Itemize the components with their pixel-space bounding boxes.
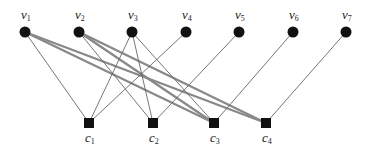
check-node-c4: c4	[261, 118, 272, 146]
edge-v2-c3	[79, 32, 214, 123]
check-node-label: c4	[262, 130, 272, 146]
variable-node-v6: v6	[288, 7, 299, 38]
edge-v3-c1	[89, 32, 132, 123]
circle-node-icon	[181, 27, 192, 38]
circle-node-icon	[341, 27, 352, 38]
bipartite-graph: v1v2v3v4v5v6v7 c1c2c3c4	[0, 0, 371, 147]
variable-node-label: v7	[342, 7, 352, 23]
variable-node-v3: v3	[127, 7, 138, 38]
variable-node-v1: v1	[20, 7, 31, 38]
circle-node-icon	[127, 27, 138, 38]
circle-node-icon	[20, 27, 31, 38]
square-node-icon	[84, 118, 94, 128]
square-node-icon	[209, 118, 219, 128]
edge-v1-c3	[25, 32, 214, 123]
square-node-icon	[148, 118, 158, 128]
check-node-label: c2	[149, 130, 159, 146]
circle-node-icon	[234, 27, 245, 38]
edge-v3-c2	[132, 32, 153, 123]
edges-layer	[25, 32, 346, 123]
variable-node-v4: v4	[181, 7, 192, 38]
variable-node-v2: v2	[74, 7, 85, 38]
square-node-icon	[261, 118, 271, 128]
check-node-label: c3	[210, 130, 220, 146]
variable-node-label: v3	[128, 7, 138, 23]
variable-node-label: v5	[235, 7, 245, 23]
variable-node-label: v4	[182, 7, 192, 23]
variable-nodes-layer: v1v2v3v4v5v6v7	[20, 7, 352, 38]
edge-v2-c2	[79, 32, 153, 123]
variable-node-label: v6	[289, 7, 299, 23]
check-nodes-layer: c1c2c3c4	[84, 118, 272, 146]
edge-v7-c4	[266, 32, 346, 123]
variable-node-v5: v5	[234, 7, 245, 38]
circle-node-icon	[74, 27, 85, 38]
variable-node-label: v2	[75, 7, 85, 23]
check-node-c1: c1	[84, 118, 95, 146]
variable-node-v7: v7	[341, 7, 352, 38]
variable-node-label: v1	[21, 7, 31, 23]
edge-v1-c1	[25, 32, 89, 123]
check-node-c3: c3	[209, 118, 220, 146]
check-node-c2: c2	[148, 118, 159, 146]
check-node-label: c1	[85, 130, 95, 146]
circle-node-icon	[288, 27, 299, 38]
